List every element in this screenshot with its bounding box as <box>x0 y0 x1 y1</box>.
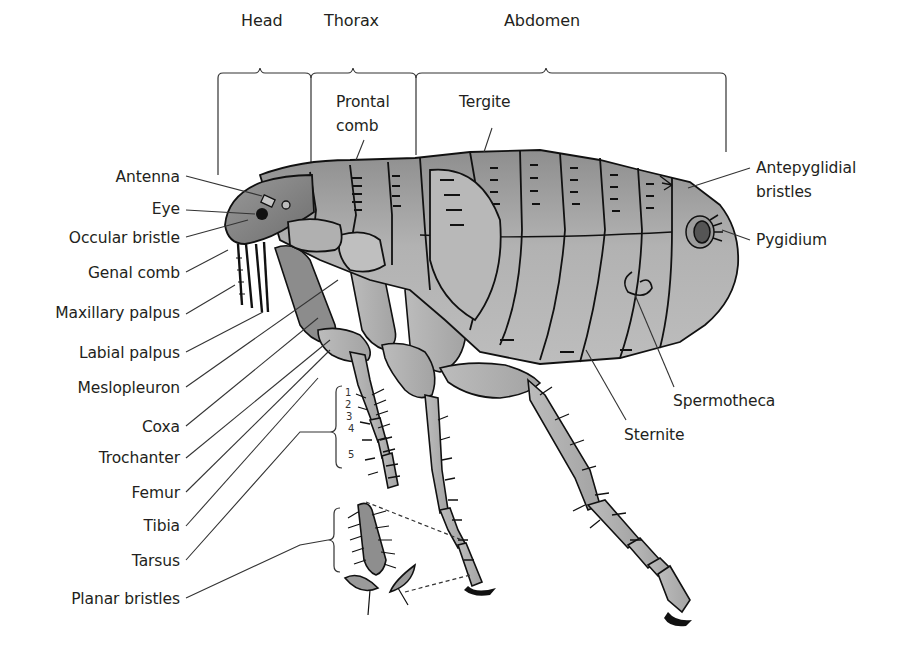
label-sternite: Sternite <box>624 426 685 444</box>
label-prontal-comb-line1: Prontal <box>336 93 390 111</box>
section-label-abdomen: Abdomen <box>504 12 580 30</box>
leg-bristles <box>356 387 642 560</box>
label-labial-palpus: Labial palpus <box>79 344 180 362</box>
tarsal-segment-3: 3 <box>346 412 352 422</box>
tarsal-segment-1: 1 <box>345 388 351 398</box>
label-spermotheca: Spermotheca <box>673 392 775 410</box>
flea-illustration <box>0 0 904 646</box>
flea-anatomy-diagram: Head Thorax Abdomen Prontal comb Tergite… <box>0 0 904 646</box>
label-antepyglidial-bristles-line2: bristles <box>756 183 812 201</box>
label-tergite: Tergite <box>459 93 511 111</box>
label-prontal-comb-line2: comb <box>336 117 379 135</box>
section-label-thorax: Thorax <box>324 12 379 30</box>
palpi <box>238 242 268 312</box>
label-antenna: Antenna <box>116 168 181 186</box>
mid-leg-claw <box>464 586 496 596</box>
label-pygidium: Pygidium <box>756 231 827 249</box>
tarsal-bracket <box>330 386 342 468</box>
label-femur: Femur <box>132 484 180 502</box>
tarsal-segment-4: 4 <box>348 424 354 434</box>
eye-shape <box>256 208 268 220</box>
planar-bracket <box>328 508 340 572</box>
label-eye: Eye <box>152 200 180 218</box>
tarsus-inset <box>345 503 415 615</box>
hind-leg-claw <box>664 612 692 626</box>
section-label-head: Head <box>241 12 282 30</box>
label-tibia: Tibia <box>144 517 180 535</box>
label-meslopleuron: Meslopleuron <box>78 379 180 397</box>
label-occular-bristle: Occular bristle <box>69 229 180 247</box>
label-maxillary-palpus: Maxillary palpus <box>55 304 180 322</box>
tarsal-segment-5: 5 <box>348 450 354 460</box>
tarsal-segment-2: 2 <box>345 400 351 410</box>
label-trochanter: Trochanter <box>99 449 180 467</box>
label-genal-comb: Genal comb <box>88 264 180 282</box>
label-planar-bristles: Planar bristles <box>71 590 180 608</box>
label-tarsus: Tarsus <box>132 552 180 570</box>
label-antepyglidial-bristles-line1: Antepyglidial <box>756 159 856 177</box>
label-coxa: Coxa <box>142 418 180 436</box>
